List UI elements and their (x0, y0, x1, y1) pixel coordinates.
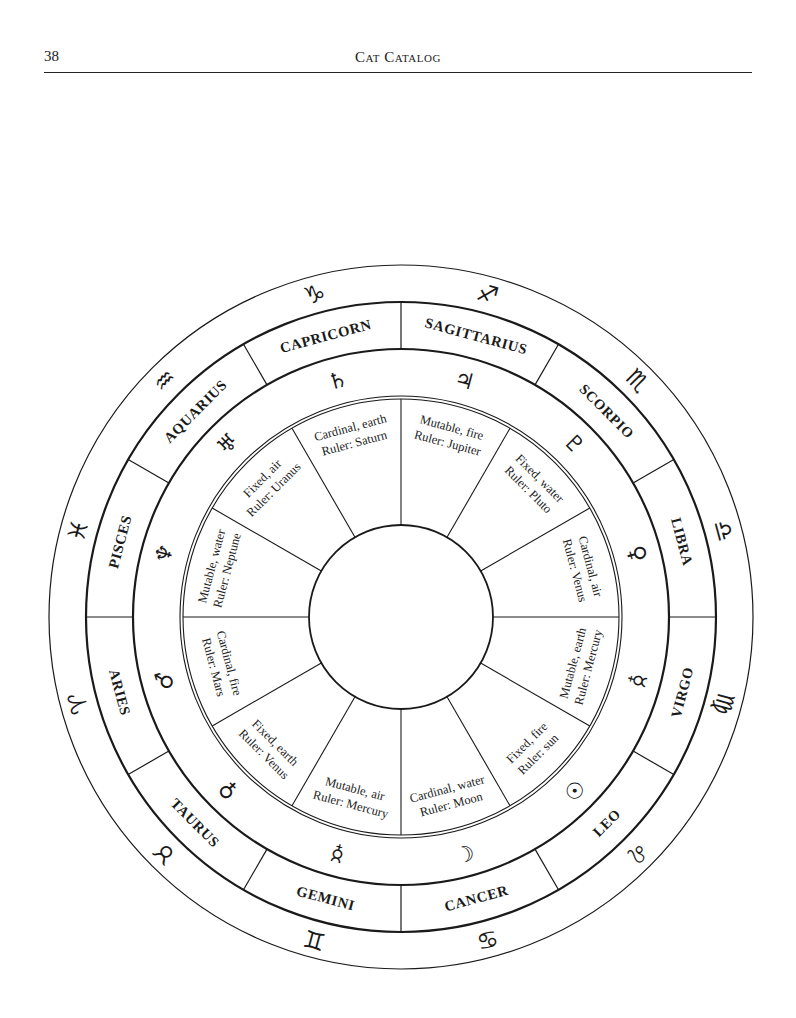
sign-divider (244, 344, 268, 385)
saturn-glyph-icon: ♄ (325, 366, 351, 395)
segment-libra: ♎LIBRA♀Cardinal, airRuler: Venus (560, 516, 740, 604)
sign-divider (128, 751, 169, 775)
zodiac-wheel-diagram: ♐SAGITTARIUS♃Mutable, fireRuler: Jupiter… (0, 0, 796, 1018)
sign-name-label: LEO (590, 806, 624, 840)
neptune-glyph-icon: ♆ (150, 541, 179, 567)
aries-glyph-icon: ♈ (62, 689, 95, 717)
sign-name-label: PISCES (105, 513, 135, 570)
ring-hub (309, 525, 493, 709)
aquarius-glyph-icon: ♒ (147, 363, 182, 398)
mercury-glyph-icon: ☿ (624, 671, 652, 691)
sun-glyph-icon: ☉ (558, 774, 590, 806)
mercury-glyph-icon: ☿ (328, 840, 348, 868)
libra-glyph-icon: ♎ (707, 517, 740, 545)
segment-pisces: ♓PISCES♆Mutable, waterRuler: Neptune (62, 513, 244, 609)
segment-scorpio: ♏SCORPIO♇Fixed, waterRuler: Pluto (502, 363, 655, 516)
sign-name-label: LIBRA (668, 516, 696, 567)
pluto-glyph-icon: ♇ (558, 428, 590, 460)
mars-glyph-icon: ♂ (150, 668, 179, 694)
segment-aquarius: ♒AQUARIUS♅Fixed, airRuler: Uranus (147, 363, 303, 519)
sign-name-label: ARIES (106, 667, 134, 717)
venus-glyph-icon: ♀ (213, 776, 242, 805)
sign-name-label: TAURUS (168, 795, 223, 850)
cancer-glyph-icon: ♋ (473, 923, 501, 956)
sign-divider (633, 460, 674, 484)
sign-name-label: VIRGO (668, 665, 697, 720)
segment-cancer: ♋CANCER☾Cardinal, waterRuler: Moon (408, 772, 510, 956)
virgo-glyph-icon: ♍ (707, 689, 740, 717)
sign-divider (633, 751, 674, 775)
moon-glyph-icon: ☾ (452, 839, 478, 868)
uranus-glyph-icon: ♅ (212, 428, 244, 460)
segment-gemini: ♊GEMINI☿Mutable, airRuler: Mercury (295, 774, 391, 956)
segment-virgo: ♍VIRGO☿Mutable, earthRuler: Mercury (557, 625, 740, 719)
sign-divider (128, 460, 169, 484)
sign-name-label: GEMINI (295, 883, 357, 914)
sign-divider (244, 849, 268, 890)
sign-name-label: CANCER (443, 882, 511, 914)
segment-capricorn: ♑CAPRICORN♄Cardinal, earthRuler: Saturn (278, 278, 389, 458)
sign-divider (535, 344, 559, 385)
pisces-glyph-icon: ♓ (62, 517, 95, 545)
venus-glyph-icon: ♀ (623, 543, 651, 565)
segment-aries: ♈ARIES♂Cardinal, fireRuler: Mars (62, 629, 244, 717)
segment-sagittarius: ♐SAGITTARIUS♃Mutable, fireRuler: Jupiter (413, 278, 530, 459)
capricorn-glyph-icon: ♑ (301, 278, 329, 311)
sagittarius-glyph-icon: ♐ (473, 278, 501, 311)
gemini-glyph-icon: ♊ (301, 923, 329, 956)
jupiter-glyph-icon: ♃ (452, 366, 478, 395)
taurus-glyph-icon: ♉ (147, 836, 182, 871)
wheel-labels: ♐SAGITTARIUS♃Mutable, fireRuler: Jupiter… (62, 278, 740, 956)
scorpio-glyph-icon: ♏ (620, 363, 655, 398)
sign-divider (535, 849, 559, 890)
leo-glyph-icon: ♌ (620, 836, 655, 871)
segment-taurus: ♉TAURUS♀Fixed, earthRuler: Venus (147, 717, 301, 871)
